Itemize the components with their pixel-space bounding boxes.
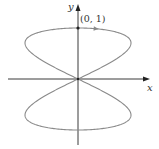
y-axis-arrow-icon (76, 4, 81, 11)
origin-marker (77, 78, 79, 80)
point-label: (0, 1) (80, 13, 106, 24)
point-marker (76, 26, 79, 29)
x-axis-label: x (147, 82, 153, 93)
y-axis-label: y (67, 1, 74, 12)
x-axis-arrow-icon (143, 77, 150, 82)
parametric-curve-figure: x y (0, 1) (0, 0, 159, 149)
